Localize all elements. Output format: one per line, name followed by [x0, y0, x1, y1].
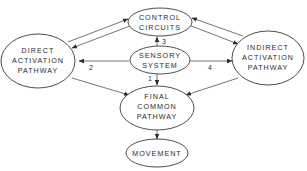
- svg-text:PATHWAY: PATHWAY: [248, 63, 289, 72]
- svg-text:INDIRECT: INDIRECT: [247, 43, 289, 52]
- svg-text:CONTROL: CONTROL: [139, 13, 181, 22]
- svg-text:DIRECT: DIRECT: [22, 46, 55, 55]
- edge-label-3: 3: [162, 38, 166, 45]
- svg-text:CIRCUITS: CIRCUITS: [139, 23, 181, 32]
- svg-text:MOVEMENT: MOVEMENT: [132, 149, 182, 158]
- edge-label-4: 4: [208, 64, 212, 71]
- node-control-circuits: CONTROL CIRCUITS: [128, 8, 192, 36]
- node-sensory-system: SENSORY SYSTEM: [130, 46, 190, 74]
- edge-indirect-to-final: [186, 78, 238, 95]
- edge-label-1: 1: [148, 75, 152, 82]
- edge-direct-to-final: [72, 78, 129, 95]
- svg-text:PATHWAY: PATHWAY: [137, 112, 178, 121]
- svg-text:PATHWAY: PATHWAY: [18, 66, 59, 75]
- node-direct-activation-pathway: DIRECT ACTIVATION PATHWAY: [1, 34, 75, 88]
- svg-text:COMMON: COMMON: [137, 102, 177, 111]
- node-movement: MOVEMENT: [126, 139, 188, 167]
- edge-indirect-to-control: [192, 18, 243, 36]
- motor-control-diagram: 3 2 4 1 CONTROL CIRCUITS SENSORY SYSTEM …: [0, 0, 307, 171]
- node-final-common-pathway: FINAL COMMON PATHWAY: [120, 86, 194, 130]
- edge-control-to-indirect: [189, 25, 238, 44]
- svg-text:ACTIVATION: ACTIVATION: [242, 53, 294, 62]
- svg-text:SYSTEM: SYSTEM: [142, 61, 178, 70]
- edge-label-2: 2: [89, 64, 93, 71]
- svg-text:SENSORY: SENSORY: [139, 51, 181, 60]
- node-indirect-activation-pathway: INDIRECT ACTIVATION PATHWAY: [232, 31, 304, 85]
- svg-text:ACTIVATION: ACTIVATION: [12, 56, 64, 65]
- svg-text:FINAL: FINAL: [144, 92, 169, 101]
